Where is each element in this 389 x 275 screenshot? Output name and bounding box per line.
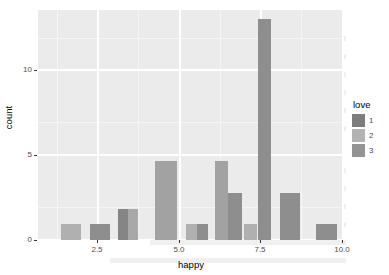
y-tick-mark-5 [34, 155, 37, 156]
bar [228, 193, 242, 240]
legend-key-swatch [352, 129, 365, 142]
bar [128, 209, 138, 241]
legend-item-label: 3 [369, 146, 373, 155]
legend-title: love [353, 99, 373, 110]
y-tick-label-10: 10 [14, 65, 32, 74]
bar [186, 224, 197, 240]
x-tick-mark-2.5 [97, 240, 98, 243]
bar [244, 224, 258, 240]
legend-item[interactable]: 2 [352, 129, 373, 142]
legend-key-swatch [352, 144, 365, 157]
y-tick-mark-0 [34, 240, 37, 241]
bar [61, 224, 81, 240]
y-tick-label-5: 5 [14, 150, 32, 159]
y-tick-mark-10 [34, 70, 37, 71]
plot-panel [38, 10, 344, 240]
bar [280, 193, 300, 240]
bar [215, 161, 228, 240]
x-tick-mark-10.0 [342, 240, 343, 243]
bar [316, 224, 336, 240]
chart-figure: count 10 5 0 2.5 5.0 7.5 10.0 ha [0, 0, 389, 275]
y-axis-label: count [3, 96, 14, 140]
x-tick-mark-7.5 [260, 240, 261, 243]
bars-layer [38, 10, 344, 240]
bar [197, 224, 208, 240]
x-tick-label-2.5: 2.5 [82, 245, 112, 254]
bar [155, 161, 177, 240]
bar [258, 19, 272, 240]
x-axis-label: happy [38, 259, 344, 270]
legend-key-swatch [352, 114, 365, 127]
bar [118, 209, 128, 241]
bar [90, 224, 110, 240]
x-tick-label-5.0: 5.0 [164, 245, 194, 254]
legend: love 123 [352, 99, 373, 159]
x-tick-label-7.5: 7.5 [245, 245, 275, 254]
legend-item-label: 1 [369, 116, 373, 125]
legend-item-label: 2 [369, 131, 373, 140]
legend-items: 123 [352, 114, 373, 157]
x-tick-label-10.0: 10.0 [327, 245, 357, 254]
x-tick-mark-5.0 [179, 240, 180, 243]
legend-item[interactable]: 3 [352, 144, 373, 157]
y-tick-label-0: 0 [14, 235, 32, 244]
legend-item[interactable]: 1 [352, 114, 373, 127]
